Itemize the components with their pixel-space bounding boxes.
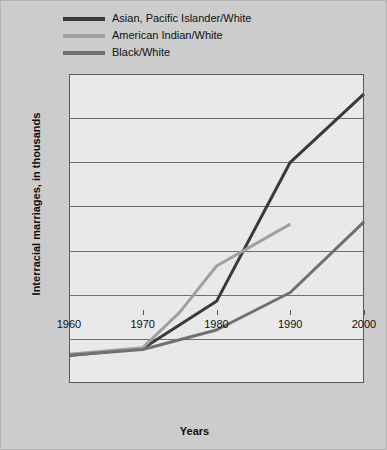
- series-lines: [69, 74, 364, 383]
- legend-swatch: [63, 51, 105, 55]
- series-line: [69, 224, 290, 354]
- x-tick-mark: [364, 310, 365, 315]
- x-tick-mark: [290, 310, 291, 315]
- x-tick-mark: [143, 310, 144, 315]
- series-line: [69, 222, 364, 355]
- legend-label: Black/White: [112, 45, 170, 60]
- x-tick-label: 1970: [113, 318, 173, 330]
- legend-swatch: [63, 17, 105, 21]
- x-tick-label: 2000: [334, 318, 387, 330]
- x-tick-mark: [69, 310, 70, 315]
- legend-item: American Indian/White: [63, 28, 251, 43]
- legend-item: Asian, Pacific Islander/White: [63, 11, 251, 26]
- x-tick-label: 1990: [260, 318, 320, 330]
- legend-label: American Indian/White: [112, 28, 223, 43]
- x-tick-label: 1980: [187, 318, 247, 330]
- x-tick-label: 1960: [39, 318, 99, 330]
- x-axis-title: Years: [1, 425, 387, 437]
- x-tick-mark: [217, 310, 218, 315]
- legend-swatch: [63, 34, 105, 38]
- chart-legend: Asian, Pacific Islander/WhiteAmerican In…: [63, 11, 251, 60]
- legend-label: Asian, Pacific Islander/White: [112, 11, 251, 26]
- y-axis-title: Interracial marriages, in thousands: [30, 89, 42, 319]
- legend-item: Black/White: [63, 45, 251, 60]
- chart-figure: Asian, Pacific Islander/WhiteAmerican In…: [0, 0, 387, 450]
- plot-area: [69, 74, 364, 383]
- series-line: [69, 94, 364, 356]
